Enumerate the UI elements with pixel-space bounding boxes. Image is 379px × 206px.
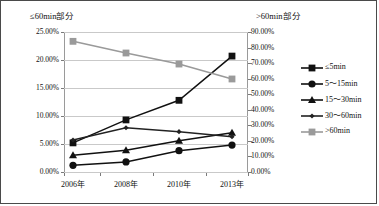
x-axis-tick-label: 2010年 bbox=[157, 178, 201, 189]
right-axis-tick-mark bbox=[248, 125, 252, 126]
series-layer bbox=[64, 32, 248, 172]
x-axis-tick-label: 2008年 bbox=[104, 178, 148, 189]
right-axis-tick-label: 90.00% bbox=[251, 27, 297, 36]
legend-marker-icon bbox=[301, 60, 323, 72]
series-line bbox=[73, 128, 232, 140]
data-point-marker bbox=[70, 38, 77, 45]
data-point-marker bbox=[123, 50, 130, 57]
data-point-marker bbox=[123, 117, 130, 124]
data-point-marker bbox=[309, 129, 316, 136]
gridline bbox=[64, 172, 248, 173]
legend-item-label: 5～15min bbox=[325, 77, 357, 88]
left-axis-title: ≤60min部分 bbox=[30, 9, 74, 21]
x-axis-tick-mark bbox=[248, 172, 249, 176]
left-axis-tick-label: 15.00% bbox=[15, 83, 59, 92]
legend-marker-icon bbox=[301, 108, 323, 120]
x-axis-tick-label: 2013年 bbox=[210, 178, 254, 189]
data-point-marker bbox=[308, 80, 315, 87]
data-point-marker bbox=[176, 61, 183, 68]
data-point-marker bbox=[122, 158, 129, 165]
series-5 bbox=[70, 38, 236, 82]
data-point-marker bbox=[309, 65, 316, 72]
x-axis-tick-label: 2006年 bbox=[51, 178, 95, 189]
right-axis-tick-mark bbox=[248, 79, 252, 80]
data-point-marker bbox=[69, 162, 76, 169]
right-axis-tick-mark bbox=[248, 156, 252, 157]
legend-marker-icon bbox=[301, 76, 323, 88]
data-point-marker bbox=[309, 113, 314, 118]
legend-item-label: >60min bbox=[325, 126, 350, 135]
data-point-marker bbox=[229, 53, 236, 60]
legend-item-label: 15～30min bbox=[325, 93, 361, 104]
left-axis-tick-label: 5.00% bbox=[15, 139, 59, 148]
right-axis-title: >60min部分 bbox=[256, 9, 301, 21]
right-axis-tick-mark bbox=[248, 32, 252, 33]
data-point-marker bbox=[176, 129, 181, 134]
legend-item-1[interactable]: ≤5min bbox=[301, 58, 377, 74]
left-axis-tick-label: 25.00% bbox=[15, 27, 59, 36]
chart-frame: ≤60min部分 >60min部分 0.00%5.00%10.00%15.00%… bbox=[0, 0, 377, 204]
series-line bbox=[73, 41, 232, 79]
legend: ≤5min5～15min15～30min30～60min>60min bbox=[301, 58, 377, 138]
right-axis-tick-label: 40.00% bbox=[251, 105, 297, 114]
left-axis-tick-label: 10.00% bbox=[15, 111, 59, 120]
right-axis-tick-label: 0.00% bbox=[251, 167, 297, 176]
right-axis-tick-mark bbox=[248, 141, 252, 142]
right-axis-tick-mark bbox=[248, 63, 252, 64]
legend-item-3[interactable]: 15～30min bbox=[301, 90, 377, 106]
legend-item-label: ≤5min bbox=[325, 62, 346, 71]
legend-marker-icon bbox=[301, 124, 323, 136]
data-point-marker bbox=[228, 142, 235, 149]
right-axis-tick-label: 80.00% bbox=[251, 43, 297, 52]
right-axis-tick-label: 50.00% bbox=[251, 89, 297, 98]
data-point-marker bbox=[229, 76, 236, 83]
series-line bbox=[73, 133, 232, 155]
legend-item-label: 30～60min bbox=[325, 109, 361, 120]
legend-item-4[interactable]: 30～60min bbox=[301, 106, 377, 122]
right-axis-tick-label: 10.00% bbox=[251, 151, 297, 160]
legend-item-2[interactable]: 5～15min bbox=[301, 74, 377, 90]
plot-area bbox=[64, 32, 248, 172]
left-axis-tick-label: 0.00% bbox=[15, 167, 59, 176]
right-axis-tick-mark bbox=[248, 48, 252, 49]
right-axis-tick-label: 60.00% bbox=[251, 74, 297, 83]
right-axis-tick-label: 20.00% bbox=[251, 136, 297, 145]
data-point-marker bbox=[123, 125, 128, 130]
right-axis-tick-label: 30.00% bbox=[251, 120, 297, 129]
right-axis-tick-mark bbox=[248, 110, 252, 111]
series-line bbox=[73, 145, 232, 165]
data-point-marker bbox=[175, 147, 182, 154]
legend-marker-icon bbox=[301, 92, 323, 104]
series-1 bbox=[70, 53, 236, 147]
right-axis-tick-mark bbox=[248, 94, 252, 95]
legend-item-5[interactable]: >60min bbox=[301, 122, 377, 138]
data-point-marker bbox=[176, 97, 183, 104]
right-axis-tick-label: 70.00% bbox=[251, 58, 297, 67]
left-axis-tick-label: 20.00% bbox=[15, 55, 59, 64]
